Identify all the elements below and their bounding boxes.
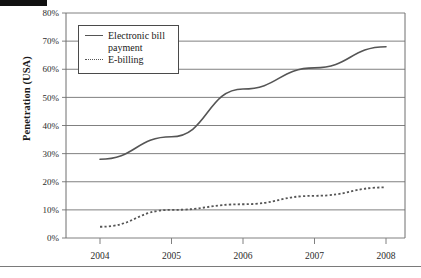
x-tick-label: 2008 bbox=[377, 251, 396, 261]
y-tick-label: 70% bbox=[43, 36, 60, 46]
chart-legend: Electronic bill payment E-billing bbox=[78, 25, 179, 74]
plot-svg: 0%10%20%30%40%50%60%70%80%20042005200620… bbox=[0, 0, 421, 278]
x-tick-label: 2004 bbox=[91, 251, 110, 261]
y-tick-label: 40% bbox=[43, 121, 60, 131]
y-tick-label: 0% bbox=[47, 233, 60, 243]
legend-label-1: E-billing bbox=[108, 54, 144, 66]
legend-item-1: E-billing bbox=[84, 54, 173, 66]
legend-dotted-line-icon bbox=[84, 54, 104, 66]
legend-solid-line-icon bbox=[84, 30, 104, 42]
y-tick-label: 50% bbox=[43, 93, 60, 103]
x-tick-label: 2007 bbox=[305, 251, 324, 261]
chart-figure: Penetration (USA) 0%10%20%30%40%50%60%70… bbox=[0, 0, 421, 278]
series-line-1 bbox=[100, 187, 386, 226]
y-tick-label: 60% bbox=[43, 64, 60, 74]
x-tick-label: 2006 bbox=[234, 251, 253, 261]
y-tick-label: 10% bbox=[43, 205, 60, 215]
legend-item-0: Electronic bill payment bbox=[84, 30, 173, 53]
y-tick-label: 30% bbox=[43, 149, 60, 159]
legend-label-0: Electronic bill payment bbox=[108, 30, 173, 53]
y-tick-label: 80% bbox=[43, 8, 60, 18]
x-tick-label: 2005 bbox=[162, 251, 181, 261]
y-tick-label: 20% bbox=[43, 177, 60, 187]
